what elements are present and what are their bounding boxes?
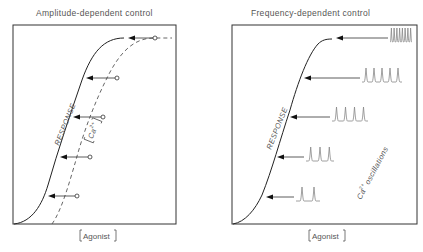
frequency-arrow (266, 195, 294, 200)
calcium-oscillation-trace (332, 107, 368, 121)
amplitude-calcium-label: Ca 2+ (83, 117, 102, 142)
frequency-panel-title: Frequency-dependent control (251, 8, 370, 18)
calcium-point (101, 115, 105, 119)
calcium-oscillation-trace (362, 68, 402, 82)
amplitude-panel: Amplitude-dependent control (13, 8, 176, 241)
amplitude-response-label: RESPONSE (53, 101, 78, 147)
frequency-arrow (277, 155, 304, 160)
amplitude-arrow (48, 194, 79, 199)
calcium-oscillation-trace (306, 147, 334, 161)
oscillations-label: Ca 2+ oscillations (353, 144, 390, 201)
amplitude-arrow (73, 115, 105, 120)
amplitude-arrow (86, 76, 119, 81)
frequency-arrow (290, 115, 330, 120)
calcium-oscillation-trace (296, 187, 320, 201)
calcium-oscillation-trace (390, 28, 412, 42)
calcium-point (75, 194, 79, 198)
svg-text:oscillations: oscillations (363, 145, 390, 186)
svg-text:Agonist: Agonist (312, 232, 339, 241)
frequency-plot-frame (232, 25, 417, 224)
calcium-point (88, 155, 92, 159)
calcium-point (115, 76, 119, 80)
amplitude-arrow (60, 155, 92, 160)
frequency-arrow (304, 76, 360, 81)
frequency-panel: Frequency-dependent control (232, 8, 417, 241)
amplitude-x-axis-label: Agonist (80, 230, 116, 241)
figure: Amplitude-dependent control (0, 0, 423, 252)
svg-text:Agonist: Agonist (83, 232, 110, 241)
calcium-point (153, 36, 157, 40)
frequency-arrow (336, 36, 388, 41)
frequency-response-label: RESPONSE (265, 105, 290, 151)
calcium-oscillation-traces (296, 28, 412, 201)
frequency-response-curve (233, 39, 332, 224)
amplitude-panel-title: Amplitude-dependent control (36, 8, 153, 18)
frequency-x-axis-label: Agonist (309, 230, 345, 241)
